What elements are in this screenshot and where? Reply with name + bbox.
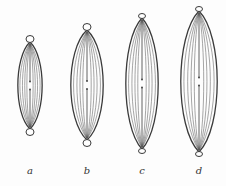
label-b: b [84, 165, 90, 176]
cell-d [181, 7, 217, 157]
spindle-cells-illustration [0, 0, 226, 186]
cell-c [126, 14, 158, 154]
figure-canvas: a b c d [0, 0, 226, 186]
label-c: c [139, 165, 145, 176]
cell-b [71, 24, 103, 147]
label-a: a [27, 165, 33, 176]
label-d: d [196, 165, 202, 176]
cell-a [18, 36, 42, 136]
